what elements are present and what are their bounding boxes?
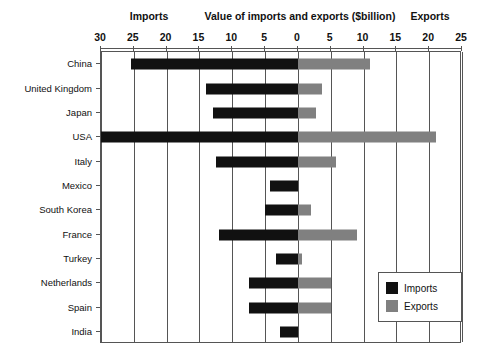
gridline	[101, 52, 102, 342]
legend-item-exports: Exports	[386, 297, 461, 315]
x-axis-tick-label: 10	[348, 31, 378, 43]
bar-exports-turkey	[298, 253, 302, 264]
bar-imports-mexico	[270, 180, 298, 191]
bar-imports-netherlands	[249, 278, 298, 289]
legend-label-exports: Exports	[404, 301, 438, 312]
x-axis-tick-label: 15	[380, 31, 410, 43]
bar-imports-turkey	[276, 253, 298, 264]
bar-exports-south-korea	[298, 205, 311, 216]
bar-exports-spain	[298, 302, 331, 313]
bar-imports-india	[280, 326, 298, 337]
bar-exports-netherlands	[298, 278, 331, 289]
x-axis-tick-label: 20	[151, 31, 181, 43]
bar-imports-usa	[101, 132, 298, 143]
legend-swatch-exports	[386, 300, 398, 312]
bar-imports-south-korea	[265, 205, 298, 216]
x-axis-tick-label: 0	[282, 31, 312, 43]
zero-axis-line	[298, 52, 299, 342]
category-label-netherlands: Netherlands	[0, 277, 92, 288]
gridline	[364, 52, 365, 342]
chart-container: Imports Value of imports and exports ($b…	[0, 0, 484, 359]
x-axis-tick-label: 25	[118, 31, 148, 43]
x-axis-tick-labels: 302520151050510152025	[0, 31, 484, 45]
gridline	[232, 52, 233, 342]
x-axis-tick-label: 15	[183, 31, 213, 43]
legend-label-imports: Imports	[404, 283, 437, 294]
x-axis-tick-label: 20	[413, 31, 443, 43]
category-label-japan: Japan	[0, 106, 92, 117]
category-label-spain: Spain	[0, 301, 92, 312]
bar-imports-italy	[216, 156, 298, 167]
x-axis-tick-mark	[461, 46, 462, 51]
bar-imports-china	[131, 59, 298, 70]
bar-exports-china	[298, 59, 370, 70]
gridline	[134, 52, 135, 342]
category-label-mexico: Mexico	[0, 179, 92, 190]
bar-imports-spain	[249, 302, 298, 313]
bar-exports-usa	[298, 132, 436, 143]
category-label-united-kingdom: United Kingdom	[0, 82, 92, 93]
bar-imports-france	[219, 229, 298, 240]
category-label-india: India	[0, 325, 92, 336]
x-axis-tick-label: 25	[446, 31, 476, 43]
x-axis-tick-label: 5	[249, 31, 279, 43]
gridline	[199, 52, 200, 342]
gridline	[265, 52, 266, 342]
chart-legend: Imports Exports	[378, 272, 462, 322]
x-axis-tick-label: 5	[315, 31, 345, 43]
x-axis-line	[100, 48, 461, 49]
category-label-france: France	[0, 228, 92, 239]
gridline	[167, 52, 168, 342]
bar-exports-united-kingdom	[298, 83, 322, 94]
category-label-usa: USA	[0, 131, 92, 142]
bar-exports-france	[298, 229, 357, 240]
x-axis-tick-label: 10	[216, 31, 246, 43]
bar-exports-italy	[298, 156, 336, 167]
category-label-turkey: Turkey	[0, 252, 92, 263]
gridline	[331, 52, 332, 342]
category-label-italy: Italy	[0, 155, 92, 166]
exports-axis-title: Exports	[390, 10, 470, 24]
category-label-china: China	[0, 58, 92, 69]
legend-item-imports: Imports	[386, 279, 461, 297]
legend-swatch-imports	[386, 282, 398, 294]
bar-imports-united-kingdom	[206, 83, 298, 94]
gridline	[462, 52, 463, 342]
category-label-south-korea: South Korea	[0, 204, 92, 215]
x-axis-tick-label: 30	[85, 31, 115, 43]
bar-imports-japan	[213, 107, 298, 118]
bar-exports-japan	[298, 107, 316, 118]
y-axis-category-labels: ChinaUnited KingdomJapanUSAItalyMexicoSo…	[0, 51, 96, 343]
